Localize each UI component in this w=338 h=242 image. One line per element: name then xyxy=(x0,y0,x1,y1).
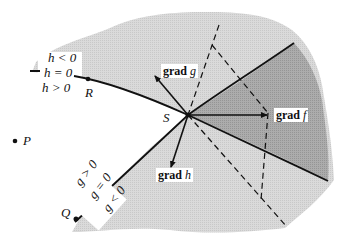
point-r xyxy=(86,77,91,82)
point-q-label: Q xyxy=(61,206,70,219)
point-s-label: S xyxy=(163,111,170,124)
point-p xyxy=(13,139,18,144)
point-q xyxy=(74,217,79,222)
point-r-label: R xyxy=(85,86,93,99)
point-s xyxy=(186,113,191,118)
h-negative-label: h < 0 xyxy=(48,51,76,64)
diagram-canvas: h < 0 h = 0 h > 0 g > 0 g = 0 g < 0 R S … xyxy=(0,0,338,242)
grad-f-prefix: grad xyxy=(276,108,300,122)
h-positive-label: h > 0 xyxy=(42,81,70,94)
grad-h-var: h xyxy=(185,168,191,182)
point-p-label: P xyxy=(23,134,31,147)
grad-g-prefix: grad xyxy=(163,64,187,78)
grad-h-prefix: grad xyxy=(158,168,182,182)
grad-h-label: grad h xyxy=(156,168,193,182)
grad-f-label: grad f xyxy=(274,108,308,122)
h-zero-label: h = 0 xyxy=(44,66,72,79)
grad-f-var: f xyxy=(303,108,306,122)
grad-g-label: grad g xyxy=(161,64,198,78)
grad-g-var: g xyxy=(190,64,196,78)
